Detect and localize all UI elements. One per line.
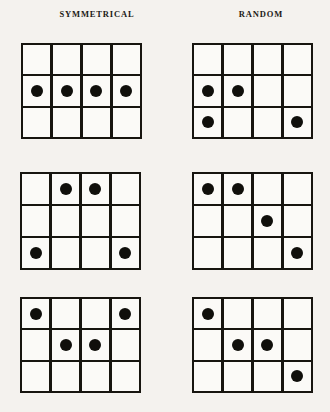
grid-cell [284,299,311,328]
grid-cell [284,238,311,268]
grid-container-symmetrical-2 [20,172,141,270]
grid-cell [284,174,311,204]
grid-cell [82,238,109,268]
grid-cell [194,108,221,137]
dot-marker [30,247,42,259]
grid-cell [52,238,79,268]
dot-grid [192,43,313,139]
column-headers: SYMMETRICAL RANDOM [0,8,330,24]
grid-cell [83,108,110,137]
grid-cell [112,362,139,391]
grid-container-random-1 [192,43,313,139]
dot-marker [89,339,101,351]
dot-grid [192,297,313,393]
dot-marker [202,308,214,320]
dot-marker [61,85,73,97]
grid-cell [23,76,50,105]
grid-cell [112,206,139,236]
grid-cell [52,362,79,391]
grid-cell [83,76,110,105]
grid-cell [194,206,221,236]
grid-cell [112,238,139,268]
grid-cell [224,299,251,328]
grid-container-symmetrical-3 [20,297,141,393]
dot-grid [20,297,141,393]
dot-marker [291,247,303,259]
grid-cell [224,108,251,137]
grid-cell [194,330,221,359]
grid-cell [254,76,281,105]
grid-container-random-3 [192,297,313,393]
grid-cell [224,76,251,105]
grid-cell [224,330,251,359]
grid-cell [194,362,221,391]
grid-cell [112,330,139,359]
grid-cell [194,76,221,105]
grid-cell [194,45,221,74]
dot-marker [291,116,303,128]
dot-grid [21,43,142,139]
grid-cell [284,206,311,236]
grid-cell [194,174,221,204]
grid-cell [284,108,311,137]
grid-cell [284,330,311,359]
grid-cell [53,76,80,105]
grid-cell [284,45,311,74]
grid-cell [254,362,281,391]
grid-cell [284,362,311,391]
dot-marker [202,183,214,195]
grid-cell [112,174,139,204]
dot-marker [31,85,43,97]
grid-cell [224,238,251,268]
grid-cell [224,206,251,236]
grid-cell [224,362,251,391]
dot-grid [192,172,313,270]
grid-cell [23,45,50,74]
dot-marker [90,85,102,97]
grid-cell [224,45,251,74]
grid-cell [53,108,80,137]
grid-cell [254,174,281,204]
grid-cell [254,330,281,359]
grid-cell [82,330,109,359]
grid-cell [52,174,79,204]
grid-cell [22,330,49,359]
grid-cell [224,174,251,204]
grid-cell [82,362,109,391]
dot-grid [20,172,141,270]
grid-cell [82,206,109,236]
grid-cell [82,299,109,328]
grid-cell [113,108,140,137]
grid-cell [284,76,311,105]
dot-marker [60,183,72,195]
column-header-symmetrical: SYMMETRICAL [36,8,158,20]
column-header-random: RANDOM [200,8,322,20]
dot-marker [261,215,273,227]
dot-marker [120,85,132,97]
grid-cell [113,76,140,105]
grid-cell [254,108,281,137]
grid-container-symmetrical-1 [21,43,142,139]
grid-cell [112,299,139,328]
dot-marker [232,85,244,97]
dot-marker [232,183,244,195]
grid-cell [52,299,79,328]
grid-cell [254,238,281,268]
grid-container-random-2 [192,172,313,270]
grid-cell [52,206,79,236]
grid-cell [23,108,50,137]
dot-marker [261,339,273,351]
grid-cell [83,45,110,74]
dot-marker [291,370,303,382]
grid-cell [52,330,79,359]
grid-cell [113,45,140,74]
dot-marker [60,339,72,351]
grid-cell [22,238,49,268]
grid-cell [194,238,221,268]
grid-cell [22,174,49,204]
grid-cell [22,299,49,328]
grid-cell [82,174,109,204]
grid-cell [254,206,281,236]
dot-marker [202,85,214,97]
dot-marker [119,247,131,259]
